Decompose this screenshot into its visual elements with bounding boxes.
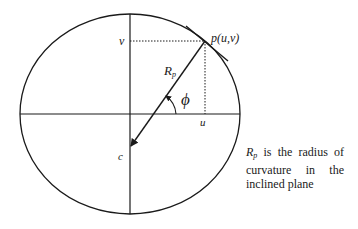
phi-label: ϕ (181, 91, 190, 108)
point-label: p(u,v) (211, 32, 239, 44)
u-label: u (200, 117, 206, 128)
radius-label: Rp (164, 64, 176, 79)
phi-angle-arc (166, 96, 176, 114)
radius-of-curvature-arrow (131, 41, 205, 146)
caption-text: Rp is the radius of curvature in the inc… (246, 145, 344, 191)
center-label: c (118, 151, 123, 162)
v-label: v (119, 35, 124, 47)
ellipse-curvature-diagram (0, 0, 358, 229)
